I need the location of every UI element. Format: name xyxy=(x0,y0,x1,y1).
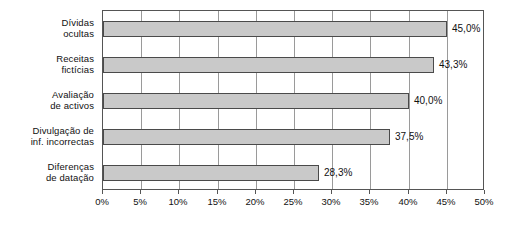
category-label: Avaliaçãode activos xyxy=(0,89,94,111)
category-label-line: Dívidas xyxy=(0,17,94,28)
bar[interactable] xyxy=(103,93,409,109)
bar[interactable] xyxy=(103,57,434,73)
x-tick-mark xyxy=(484,190,485,194)
x-tick-label: 45% xyxy=(426,196,466,207)
bar-row: 43,3% xyxy=(103,47,485,83)
category-label-line: Divulgação de xyxy=(0,125,94,136)
bar[interactable] xyxy=(103,21,447,37)
bar-row: 40,0% xyxy=(103,83,485,119)
bar-value-label: 28,3% xyxy=(319,165,352,181)
bar-value-label: 40,0% xyxy=(409,93,442,109)
x-tick-label: 35% xyxy=(349,196,389,207)
bar-row: 37,5% xyxy=(103,119,485,155)
x-tick-label: 10% xyxy=(158,196,198,207)
x-tick-label: 40% xyxy=(388,196,428,207)
x-tick-mark xyxy=(331,190,332,194)
bar[interactable] xyxy=(103,129,390,145)
x-tick-label: 5% xyxy=(120,196,160,207)
category-label: Divulgação deinf. incorrectas xyxy=(0,125,94,147)
category-label: Dívidasocultas xyxy=(0,17,94,39)
bar-value-label: 45,0% xyxy=(447,21,480,37)
bar-row: 28,3% xyxy=(103,155,485,191)
bar[interactable] xyxy=(103,165,319,181)
x-tick-mark xyxy=(102,190,103,194)
bar-row: 45,0% xyxy=(103,11,485,47)
x-axis: 0%5%10%15%20%25%30%35%40%45%50% xyxy=(102,190,484,220)
x-tick-mark xyxy=(369,190,370,194)
x-tick-label: 20% xyxy=(235,196,275,207)
x-tick-mark xyxy=(255,190,256,194)
category-axis-labels: DívidasocultasReceitasfictíciasAvaliação… xyxy=(0,10,98,190)
category-label-line: Receitas xyxy=(0,53,94,64)
x-tick-mark xyxy=(408,190,409,194)
plot-area: 45,0%43,3%40,0%37,5%28,3% xyxy=(102,10,484,190)
x-tick-mark xyxy=(140,190,141,194)
x-tick-label: 25% xyxy=(273,196,313,207)
category-label-line: de activos xyxy=(0,100,94,111)
bar-value-label: 43,3% xyxy=(434,57,467,73)
bar-chart: DívidasocultasReceitasfictíciasAvaliação… xyxy=(0,0,508,227)
x-tick-mark xyxy=(446,190,447,194)
category-label-line: Avaliação xyxy=(0,89,94,100)
x-tick-mark xyxy=(178,190,179,194)
category-label: Diferençasde datação xyxy=(0,161,94,183)
category-label-line: inf. incorrectas xyxy=(0,136,94,147)
x-tick-label: 50% xyxy=(464,196,504,207)
category-label: Receitasfictícias xyxy=(0,53,94,75)
category-label-line: ocultas xyxy=(0,28,94,39)
x-tick-label: 0% xyxy=(82,196,122,207)
category-label-line: Diferenças xyxy=(0,161,94,172)
category-label-line: de datação xyxy=(0,172,94,183)
x-tick-mark xyxy=(217,190,218,194)
bar-value-label: 37,5% xyxy=(390,129,423,145)
x-tick-label: 15% xyxy=(197,196,237,207)
bars-layer: 45,0%43,3%40,0%37,5%28,3% xyxy=(103,11,483,189)
category-label-line: fictícias xyxy=(0,64,94,75)
x-tick-mark xyxy=(293,190,294,194)
x-tick-label: 30% xyxy=(311,196,351,207)
